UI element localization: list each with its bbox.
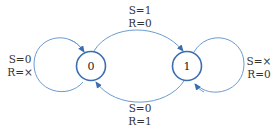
loop-1-condition-r: R=0 xyxy=(247,68,270,80)
transition-0-1-condition-s: S=1 xyxy=(129,4,152,16)
state-0-label: 0 xyxy=(88,60,95,73)
loop-0-condition-s: S=0 xyxy=(9,53,32,65)
transition-0-1-condition-r: R=0 xyxy=(128,17,151,29)
state-1-label: 1 xyxy=(184,60,191,73)
transition-0-to-1-edge xyxy=(94,30,183,51)
transition-1-to-0-edge xyxy=(96,81,184,102)
transition-1-0-condition-r: R=1 xyxy=(128,115,151,127)
loop-1-condition-s: S=× xyxy=(247,55,272,67)
loop-0-condition-r: R=× xyxy=(7,66,33,78)
transition-1-0-condition-s: S=0 xyxy=(129,102,152,114)
state-diagram: 0 1 S=0 R=× S=1 R=0 S=× R=0 S=0 R=1 xyxy=(0,0,280,135)
